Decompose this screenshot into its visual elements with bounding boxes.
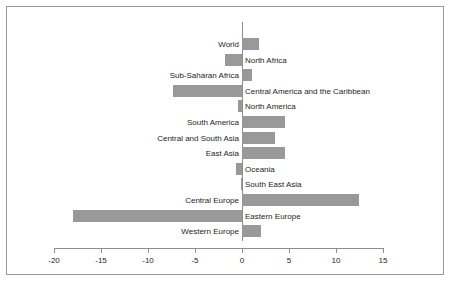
- bar: [236, 163, 242, 175]
- bar: [242, 194, 359, 206]
- x-tick: [101, 248, 102, 253]
- bar: [173, 85, 242, 97]
- bar-label: Sub-Saharan Africa: [170, 70, 239, 81]
- plot-area: WorldNorth AfricaSub-Saharan AfricaCentr…: [0, 0, 450, 281]
- bar-label: East Asia: [206, 148, 239, 159]
- x-tick: [336, 248, 337, 253]
- bar-label: North Africa: [245, 55, 287, 66]
- bar-label: Oceania: [245, 164, 275, 175]
- x-tick-label: -10: [142, 256, 154, 265]
- x-tick-label: 15: [379, 256, 388, 265]
- x-tick-label: -5: [191, 256, 198, 265]
- bar: [241, 178, 242, 190]
- bar: [242, 147, 285, 159]
- x-tick-label: 10: [332, 256, 341, 265]
- x-tick: [148, 248, 149, 253]
- bar: [238, 100, 242, 112]
- x-axis-line: [54, 248, 383, 249]
- x-tick-label: 5: [287, 256, 291, 265]
- bar: [242, 69, 252, 81]
- x-tick-label: -20: [48, 256, 60, 265]
- bar: [73, 210, 242, 222]
- bar-label: South East Asia: [245, 179, 301, 190]
- bar-label: South America: [187, 117, 239, 128]
- x-tick: [383, 248, 384, 253]
- bar: [225, 54, 242, 66]
- x-tick: [289, 248, 290, 253]
- bar-label: North America: [245, 101, 296, 112]
- x-tick: [54, 248, 55, 253]
- bar-label: Central and South Asia: [157, 133, 239, 144]
- x-tick-label: 0: [240, 256, 244, 265]
- bar-label: Eastern Europe: [245, 211, 301, 222]
- chart-figure: WorldNorth AfricaSub-Saharan AfricaCentr…: [0, 0, 450, 281]
- bar: [242, 116, 285, 128]
- bar: [242, 38, 259, 50]
- x-tick: [195, 248, 196, 253]
- bar-label: Western Europe: [181, 226, 239, 237]
- bar-label: World: [218, 39, 239, 50]
- bar: [242, 132, 275, 144]
- x-tick: [242, 248, 243, 253]
- bar: [242, 225, 261, 237]
- bar-label: Central Europe: [185, 195, 239, 206]
- x-tick-label: -15: [95, 256, 107, 265]
- bar-label: Central America and the Caribbean: [245, 86, 370, 97]
